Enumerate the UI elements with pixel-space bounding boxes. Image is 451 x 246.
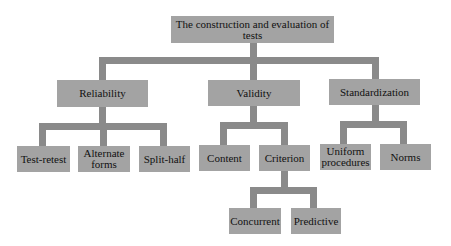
connector-criterion-drop (281, 122, 288, 146)
node-content: Content (199, 145, 250, 171)
connector-content-drop (220, 122, 227, 146)
connector-standardization-drop (372, 57, 379, 80)
node-standardization: Standardization (329, 79, 420, 105)
connector-alternate-forms-drop (100, 123, 107, 147)
connector-validity-drop (250, 57, 257, 81)
connector-concurrent-drop (250, 187, 257, 209)
node-split-half: Split-half (139, 146, 190, 172)
node-predictive: Predictive (291, 208, 341, 234)
node-test-retest: Test-retest (17, 146, 70, 172)
connector-predictive-drop (310, 187, 317, 209)
connector-norms-drop (400, 121, 407, 145)
connector-uniform-procedures-drop (340, 121, 347, 145)
node-norms: Norms (380, 144, 431, 170)
node-root: The construction and evaluation of tests (171, 16, 334, 43)
node-criterion: Criterion (259, 145, 310, 171)
node-concurrent: Concurrent (229, 208, 281, 234)
connector-validity-horizontal (220, 122, 288, 129)
connector-reliability-drop (99, 57, 106, 81)
node-validity: Validity (208, 80, 300, 106)
node-uniform-procedures: Uniform procedures (320, 144, 371, 170)
node-reliability: Reliability (57, 80, 148, 107)
connector-test-retest-drop (39, 123, 46, 147)
node-alternate-forms: Alternate forms (78, 146, 130, 172)
connector-standardization-horizontal (340, 121, 407, 128)
connector-level1-horizontal (99, 57, 379, 64)
connector-split-half-drop (160, 123, 167, 147)
connector-criterion-horizontal (250, 187, 317, 194)
